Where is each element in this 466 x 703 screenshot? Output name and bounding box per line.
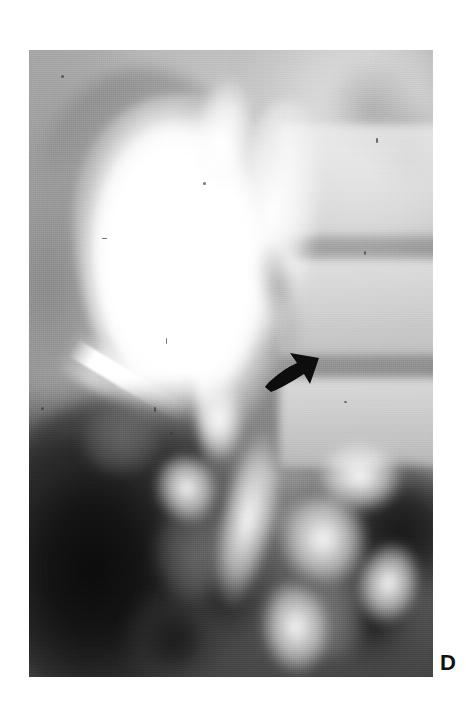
panel-label: D: [440, 652, 456, 674]
figure-page: D: [0, 0, 466, 703]
bowel-gas-mid-lower: [126, 589, 223, 677]
radiograph-image: [29, 50, 433, 677]
film-speck: [203, 182, 206, 185]
film-speck: [102, 238, 107, 239]
filling-defect-secondary: [267, 301, 307, 376]
